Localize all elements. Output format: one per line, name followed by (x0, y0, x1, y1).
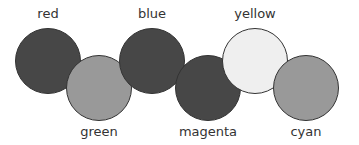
circle-cyan (273, 55, 339, 121)
label-yellow: yellow (215, 6, 295, 21)
label-red: red (8, 6, 88, 21)
label-green: green (59, 124, 139, 139)
label-magenta: magenta (168, 124, 248, 139)
label-cyan: cyan (266, 124, 346, 139)
label-blue: blue (112, 6, 192, 21)
